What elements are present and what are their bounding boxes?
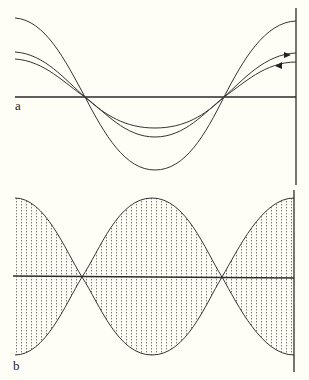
panel-a <box>15 8 296 185</box>
standing-wave-diagram <box>0 0 309 380</box>
arrow-forward-icon <box>284 52 291 58</box>
panel-label-b: b <box>13 358 20 374</box>
curve-middle <box>15 52 296 128</box>
arrow-reflected-icon <box>275 62 282 69</box>
curve-outer <box>15 18 296 170</box>
panel-b <box>13 190 295 372</box>
panel-label-a: a <box>15 98 21 114</box>
